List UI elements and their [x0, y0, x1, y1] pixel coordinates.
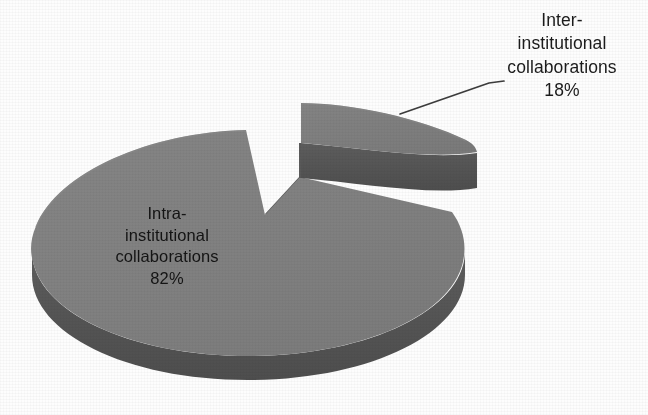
- pie-label-intra-line-1: Intra-: [88, 203, 246, 225]
- pie-chart-figure: Inter- institutional collaborations 18% …: [0, 0, 648, 415]
- pie-label-intra-institutional: Intra- institutional collaborations 82%: [88, 203, 246, 289]
- pie-label-inter-line-2: institutional: [487, 32, 637, 55]
- pie-label-intra-value: 82%: [88, 268, 246, 290]
- pie-label-inter-institutional: Inter- institutional collaborations 18%: [487, 9, 637, 102]
- pie-label-intra-line-2: institutional: [88, 225, 246, 247]
- pie-slice-inter-institutional[interactable]: [299, 103, 477, 191]
- pie-slice-inter-apex-wall: [299, 143, 301, 178]
- pie-label-inter-line-3: collaborations: [487, 56, 637, 79]
- pie-label-inter-line-1: Inter-: [487, 9, 637, 32]
- pie-label-intra-line-3: collaborations: [88, 246, 246, 268]
- pie-label-inter-value: 18%: [487, 79, 637, 102]
